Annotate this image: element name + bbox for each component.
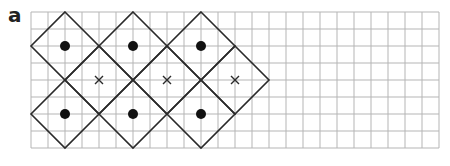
dot-marker — [60, 109, 70, 119]
dot-marker — [196, 109, 206, 119]
dot-marker — [196, 41, 206, 51]
dot-marker — [128, 109, 138, 119]
dot-marker — [60, 41, 70, 51]
dot-marker — [128, 41, 138, 51]
tessellation-diagram — [0, 0, 450, 166]
